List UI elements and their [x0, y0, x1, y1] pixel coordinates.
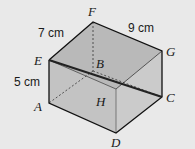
vertex-label-E: E — [34, 54, 42, 67]
dimension-FG: 9 cm — [128, 22, 154, 34]
vertex-label-H: H — [96, 95, 105, 108]
vertex-label-C: C — [166, 91, 175, 104]
vertex-label-F: F — [88, 5, 96, 18]
vertex-label-G: G — [166, 45, 175, 58]
vertex-label-A: A — [34, 100, 42, 113]
dimension-AE: 5 cm — [14, 76, 40, 88]
vertex-label-D: D — [111, 136, 120, 149]
vertex-label-B: B — [96, 57, 104, 70]
dimension-EF: 7 cm — [38, 27, 64, 39]
